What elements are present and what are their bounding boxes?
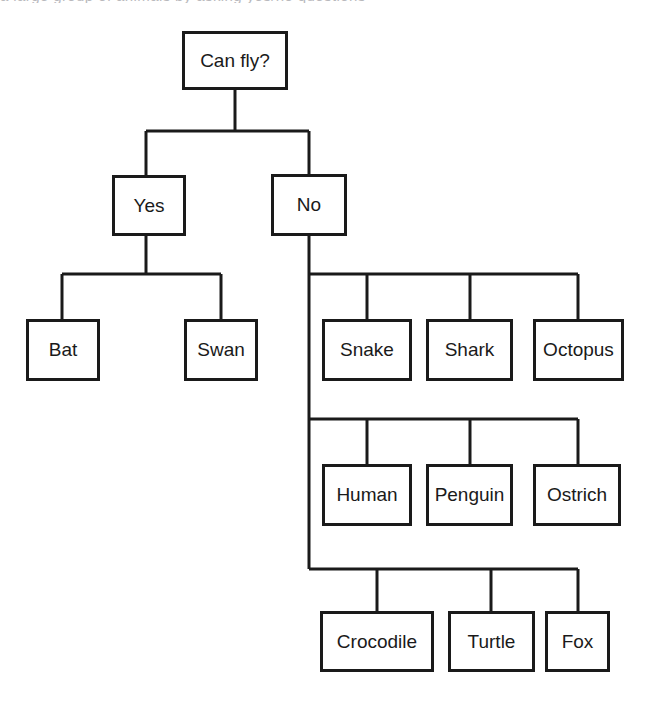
node-ostrich[interactable]: Ostrich xyxy=(535,466,620,525)
node-label-yes: Yes xyxy=(134,195,165,216)
node-no[interactable]: No xyxy=(273,176,346,235)
node-label-snake: Snake xyxy=(340,339,394,360)
node-octopus[interactable]: Octopus xyxy=(535,321,623,380)
node-human[interactable]: Human xyxy=(324,466,411,525)
node-label-octopus: Octopus xyxy=(543,339,614,360)
node-label-crocodile: Crocodile xyxy=(337,631,417,652)
node-swan[interactable]: Swan xyxy=(186,321,257,380)
node-root[interactable]: Can fly? xyxy=(184,33,287,89)
node-label-human: Human xyxy=(336,484,397,505)
node-label-penguin: Penguin xyxy=(435,484,505,505)
node-layer: Can fly?YesNoBatSwanSnakeSharkOctopusHum… xyxy=(28,33,623,671)
node-crocodile[interactable]: Crocodile xyxy=(322,613,433,671)
node-label-bat: Bat xyxy=(49,339,78,360)
node-fox[interactable]: Fox xyxy=(547,613,609,671)
node-label-no: No xyxy=(297,194,321,215)
node-label-shark: Shark xyxy=(445,339,495,360)
node-penguin[interactable]: Penguin xyxy=(428,466,512,525)
tree-canvas: Can fly?YesNoBatSwanSnakeSharkOctopusHum… xyxy=(0,0,646,702)
node-yes[interactable]: Yes xyxy=(114,177,185,235)
node-label-fox: Fox xyxy=(562,631,594,652)
node-label-ostrich: Ostrich xyxy=(547,484,607,505)
node-label-root: Can fly? xyxy=(200,50,270,71)
node-bat[interactable]: Bat xyxy=(28,321,99,380)
decision-tree-diagram: a large group of animals by asking yes/n… xyxy=(0,0,646,702)
node-snake[interactable]: Snake xyxy=(324,321,411,380)
node-turtle[interactable]: Turtle xyxy=(450,613,534,671)
node-shark[interactable]: Shark xyxy=(428,321,512,380)
node-label-swan: Swan xyxy=(197,339,245,360)
node-label-turtle: Turtle xyxy=(468,631,516,652)
